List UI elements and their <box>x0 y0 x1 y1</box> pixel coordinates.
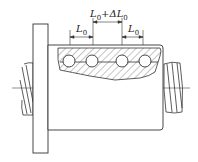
ball-4 <box>139 55 151 67</box>
screw-shaft-right <box>164 62 183 113</box>
ball-1 <box>63 55 75 67</box>
ball-3 <box>116 55 128 67</box>
label-center-pitch: L0+ΔL0 <box>90 9 128 22</box>
screw-shaft-left <box>20 63 33 115</box>
ball-screw-diagram <box>0 0 198 162</box>
ball-2 <box>86 55 98 67</box>
label-right-pitch: L0 <box>128 24 139 37</box>
flange <box>33 24 48 153</box>
label-left-pitch: L0 <box>76 24 87 37</box>
